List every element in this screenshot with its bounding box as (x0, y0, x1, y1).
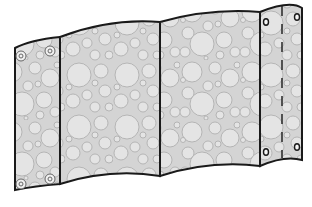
panel-3 (160, 11, 260, 176)
panel-screen-illustration (0, 0, 312, 207)
illustration-stage (0, 0, 312, 207)
panel-1 (15, 37, 60, 190)
panel-4 (260, 5, 302, 166)
panel-2 (60, 21, 160, 184)
